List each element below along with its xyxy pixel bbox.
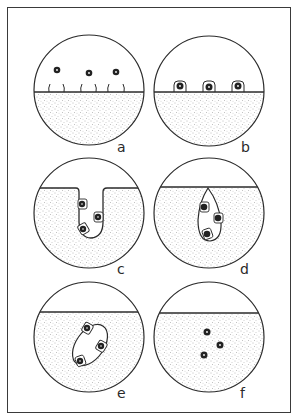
endocytosis-diagram <box>0 0 298 416</box>
panel-c <box>30 158 150 275</box>
free-particles <box>54 67 120 77</box>
panel-label-e: e <box>117 385 126 401</box>
internalizing-particles <box>77 199 103 235</box>
panel-label-d: d <box>240 261 249 277</box>
substrate-region <box>30 92 150 152</box>
panel-e <box>30 282 150 402</box>
panel-label-f: f <box>240 385 245 401</box>
panel-f <box>150 282 270 403</box>
panel-b <box>150 36 270 152</box>
substrate-region <box>150 92 270 152</box>
panel-label-c: c <box>117 261 125 277</box>
panel-label-b: b <box>241 139 250 155</box>
panel-d <box>150 158 270 277</box>
panel-label-a: a <box>117 139 126 155</box>
panel-a <box>30 35 150 152</box>
substrate-region <box>150 313 270 403</box>
receptor-hooks <box>49 84 125 92</box>
invaginated-surface <box>30 188 150 275</box>
